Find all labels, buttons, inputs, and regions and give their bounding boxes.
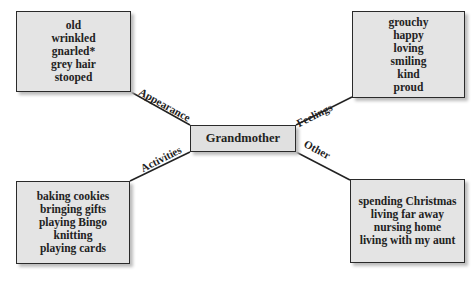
central-topic-label: Grandmother (206, 131, 280, 146)
activities-item: baking cookies (37, 190, 110, 203)
feelings-item: grouchy (388, 16, 428, 29)
central-topic-box: Grandmother (190, 125, 296, 152)
appearance-item: gnarled* (52, 45, 95, 58)
appearance-item: old (66, 19, 81, 32)
feelings-item: kind (397, 68, 419, 81)
appearance-item: grey hair (51, 58, 96, 71)
feelings-item: smiling (391, 55, 427, 68)
activities-item: knitting (54, 229, 93, 242)
activities-item: bringing gifts (40, 203, 106, 216)
feelings-item: loving (393, 42, 423, 55)
other-item: nursing home (374, 221, 441, 234)
feelings-box: grouchy happy loving smiling kind proud (352, 11, 465, 98)
activities-item: playing Bingo (39, 216, 107, 229)
other-box: spending Christmas living far away nursi… (350, 179, 465, 263)
other-item: living with my aunt (360, 234, 456, 247)
appearance-item: wrinkled (51, 32, 95, 45)
activities-box: baking cookies bringing gifts playing Bi… (16, 181, 130, 264)
other-item: living far away (371, 208, 444, 221)
activities-item: playing cards (40, 242, 106, 255)
appearance-box: old wrinkled gnarled* grey hair stooped (16, 11, 131, 92)
appearance-item: stooped (55, 71, 93, 84)
other-item: spending Christmas (358, 195, 456, 208)
feelings-item: happy (393, 29, 424, 42)
feelings-item: proud (394, 81, 424, 94)
